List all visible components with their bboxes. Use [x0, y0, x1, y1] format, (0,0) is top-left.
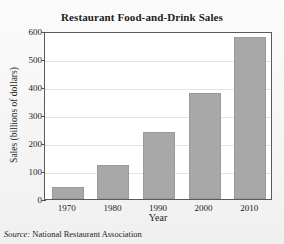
source-label: Source: — [4, 229, 30, 239]
bar — [52, 187, 84, 199]
bar — [97, 165, 129, 199]
chart-figure: Restaurant Food-and-Drink Sales Sales (b… — [0, 0, 284, 244]
bar — [143, 132, 175, 199]
y-axis: Sales (billions of dollars) 010020030040… — [4, 32, 42, 200]
y-tick-label: 400 — [8, 83, 42, 93]
y-tick-label: 0 — [8, 195, 42, 205]
chart-title: Restaurant Food-and-Drink Sales — [0, 11, 284, 23]
bar-series — [45, 33, 271, 199]
bar — [234, 37, 266, 199]
x-axis-title: Year — [44, 212, 272, 223]
y-tick-label: 200 — [8, 139, 42, 149]
plot-area — [44, 32, 272, 200]
y-tick-label: 600 — [8, 27, 42, 37]
bar — [189, 93, 221, 199]
y-tick-label: 300 — [8, 111, 42, 121]
y-tick-label: 500 — [8, 55, 42, 65]
source-note: Source: National Restaurant Association — [4, 229, 142, 239]
source-text: National Restaurant Association — [32, 229, 142, 239]
y-tick-label: 100 — [8, 167, 42, 177]
